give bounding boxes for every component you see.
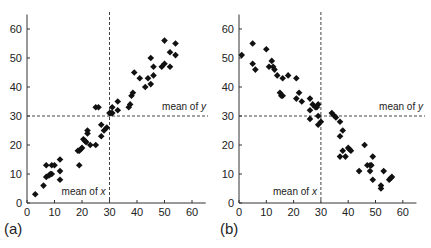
y-tick-label: 50 xyxy=(10,52,22,64)
scatter-plot-a: 01020304050600102030405060mean of xmean … xyxy=(0,0,215,248)
data-point xyxy=(337,133,344,140)
data-point xyxy=(307,107,314,114)
scatter-panel-a: 01020304050600102030405060mean of xmean … xyxy=(0,0,215,248)
data-point xyxy=(285,72,292,79)
y-tick-label: 40 xyxy=(10,81,22,93)
y-tick-label: 10 xyxy=(10,168,22,180)
x-tick-label: 20 xyxy=(76,206,88,218)
scatter-plot-b: 01020304050600102030405060mean of xmean … xyxy=(215,0,431,248)
y-tick-label: 30 xyxy=(10,110,22,122)
data-point xyxy=(367,168,374,175)
data-point xyxy=(161,37,168,44)
data-point xyxy=(296,90,303,97)
x-tick-label: 10 xyxy=(260,206,272,218)
data-point xyxy=(32,191,39,198)
data-point xyxy=(150,63,157,70)
x-tick-label: 20 xyxy=(287,206,299,218)
x-tick-label: 0 xyxy=(24,206,30,218)
scatter-panel-b: 01020304050600102030405060mean of xmean … xyxy=(215,0,430,248)
data-point xyxy=(114,107,121,114)
y-tick-label: 50 xyxy=(222,52,234,64)
data-point xyxy=(268,58,275,65)
data-point xyxy=(249,61,256,68)
y-tick-label: 10 xyxy=(222,168,234,180)
data-point xyxy=(98,133,105,140)
mean-y-label: mean of y xyxy=(162,101,207,112)
data-point xyxy=(40,182,47,189)
y-tick-label: 0 xyxy=(228,197,234,209)
data-point xyxy=(293,75,300,82)
data-point xyxy=(356,168,363,175)
y-tick-label: 60 xyxy=(222,23,234,35)
y-tick-label: 20 xyxy=(10,139,22,151)
data-point xyxy=(298,98,305,105)
y-tick-label: 60 xyxy=(10,23,22,35)
x-tick-label: 50 xyxy=(158,206,170,218)
data-point xyxy=(57,168,64,175)
x-tick-label: 40 xyxy=(342,206,354,218)
data-point xyxy=(172,40,179,47)
y-tick-label: 20 xyxy=(222,139,234,151)
data-point xyxy=(279,75,286,82)
data-point xyxy=(150,72,157,79)
y-tick-label: 0 xyxy=(16,197,22,209)
panel-label-b: (b) xyxy=(220,220,238,237)
data-point xyxy=(369,177,376,184)
data-point xyxy=(361,142,368,149)
data-point xyxy=(172,52,179,59)
data-point xyxy=(337,119,344,126)
mean-y-label: mean of y xyxy=(379,101,424,112)
x-tick-label: 0 xyxy=(236,206,242,218)
data-point xyxy=(76,162,83,169)
data-point xyxy=(252,66,259,73)
data-point xyxy=(147,81,154,88)
data-point xyxy=(307,116,314,123)
data-point xyxy=(369,153,376,160)
panel-label-a: (a) xyxy=(4,220,22,237)
data-point xyxy=(114,98,121,105)
data-point xyxy=(57,156,64,163)
data-point xyxy=(342,153,349,160)
data-point xyxy=(263,46,270,53)
x-tick-label: 60 xyxy=(397,206,409,218)
data-point xyxy=(98,121,105,128)
y-tick-label: 40 xyxy=(222,81,234,93)
data-point xyxy=(274,72,281,79)
data-point xyxy=(293,95,300,102)
mean-x-label: mean of x xyxy=(62,186,107,197)
x-tick-label: 60 xyxy=(186,206,198,218)
y-tick-label: 30 xyxy=(222,110,234,122)
data-point xyxy=(131,69,138,76)
data-point xyxy=(380,168,387,175)
data-point xyxy=(339,127,346,134)
data-point xyxy=(307,95,314,102)
x-tick-label: 30 xyxy=(315,206,327,218)
data-point xyxy=(249,40,256,47)
data-point xyxy=(167,63,174,70)
x-tick-label: 50 xyxy=(369,206,381,218)
data-point xyxy=(142,84,149,91)
data-point xyxy=(145,75,152,82)
data-point xyxy=(92,142,99,149)
mean-x-label: mean of x xyxy=(273,186,318,197)
data-point xyxy=(136,75,143,82)
x-tick-label: 40 xyxy=(131,206,143,218)
data-point xyxy=(57,177,64,184)
data-point xyxy=(147,55,154,62)
data-point xyxy=(339,148,346,155)
data-point xyxy=(167,49,174,56)
x-tick-label: 10 xyxy=(48,206,60,218)
x-tick-label: 30 xyxy=(103,206,115,218)
